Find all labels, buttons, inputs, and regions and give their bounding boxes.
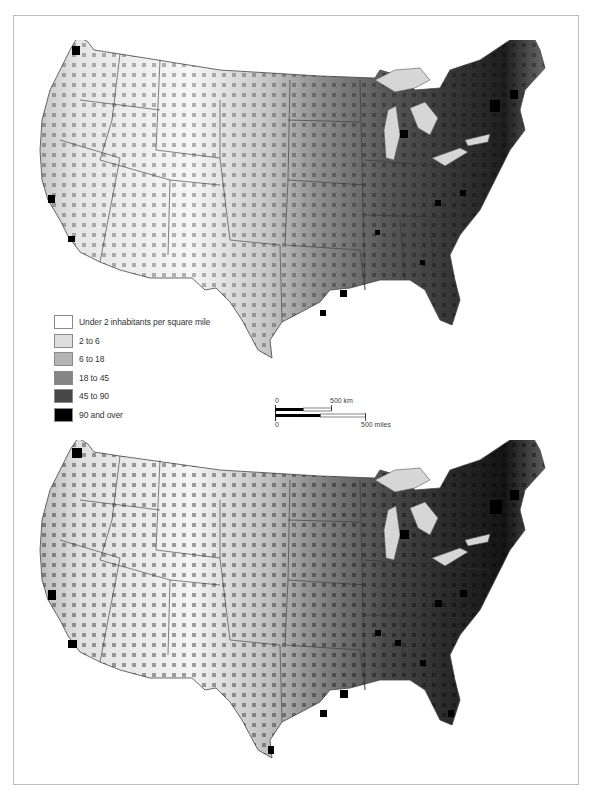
scale-km-end: 500 km (330, 397, 353, 404)
legend-label: 18 to 45 (79, 373, 109, 383)
legend-label: Under 2 inhabitants per square mile (79, 317, 210, 327)
legend-swatch-45-to-90 (54, 389, 73, 403)
legend: Under 2 inhabitants per square mile 2 to… (54, 313, 210, 424)
legend-swatch-2-to-6 (54, 334, 73, 348)
legend-swatch-under-2 (54, 315, 73, 329)
legend-item: 2 to 6 (54, 332, 210, 351)
legend-label: 6 to 18 (79, 354, 104, 364)
legend-item: 45 to 90 (54, 387, 210, 406)
legend-item: 90 and over (54, 406, 210, 425)
legend-label: 45 to 90 (79, 391, 109, 401)
scale-miles-end: 500 miles (361, 421, 391, 428)
scale-miles-start: 0 (275, 421, 279, 428)
scale-bar: 0 500 km 0 500 miles (275, 397, 395, 437)
bottom-density-map (20, 440, 580, 785)
scale-bars-graphic (275, 405, 375, 423)
legend-item: 18 to 45 (54, 369, 210, 388)
legend-swatch-18-to-45 (54, 371, 73, 385)
legend-label: 2 to 6 (79, 336, 100, 346)
legend-swatch-90-and-over (54, 408, 73, 422)
legend-swatch-6-to-18 (54, 352, 73, 366)
legend-label: 90 and over (79, 410, 123, 420)
scale-km-start: 0 (275, 397, 279, 404)
legend-item: Under 2 inhabitants per square mile (54, 313, 210, 332)
legend-item: 6 to 18 (54, 350, 210, 369)
